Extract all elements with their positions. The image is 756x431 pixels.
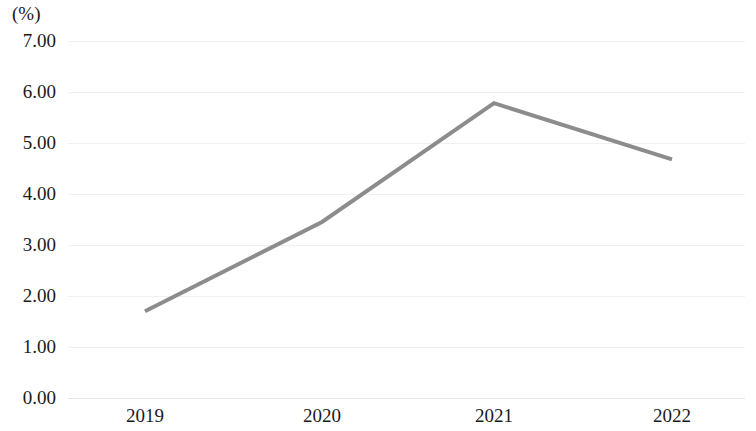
gridline — [68, 194, 745, 195]
gridline — [68, 398, 745, 399]
gridline — [68, 41, 745, 42]
y-axis-tick-label: 1.00 — [0, 337, 56, 356]
gridline — [68, 143, 745, 144]
plot-area — [0, 0, 756, 431]
line-chart: (%) 7.006.005.004.003.002.001.000.00 201… — [0, 0, 756, 431]
x-axis-tick-label: 2022 — [653, 406, 691, 425]
gridline — [68, 347, 745, 348]
y-axis-tick-label: 5.00 — [0, 133, 56, 152]
y-axis-tick-label: 2.00 — [0, 286, 56, 305]
y-axis-tick-label: 7.00 — [0, 31, 56, 50]
gridline — [68, 245, 745, 246]
gridline — [68, 92, 745, 93]
x-axis-tick-label: 2019 — [126, 406, 164, 425]
y-axis-tick-label: 6.00 — [0, 82, 56, 101]
x-axis-tick-label: 2021 — [475, 406, 513, 425]
y-axis-tick-label: 4.00 — [0, 184, 56, 203]
data-series-line — [145, 103, 672, 311]
y-axis-unit-label: (%) — [12, 4, 40, 23]
gridline — [68, 296, 745, 297]
y-axis-tick-label: 3.00 — [0, 235, 56, 254]
x-axis-tick-label: 2020 — [303, 406, 341, 425]
y-axis-tick-label: 0.00 — [0, 388, 56, 407]
